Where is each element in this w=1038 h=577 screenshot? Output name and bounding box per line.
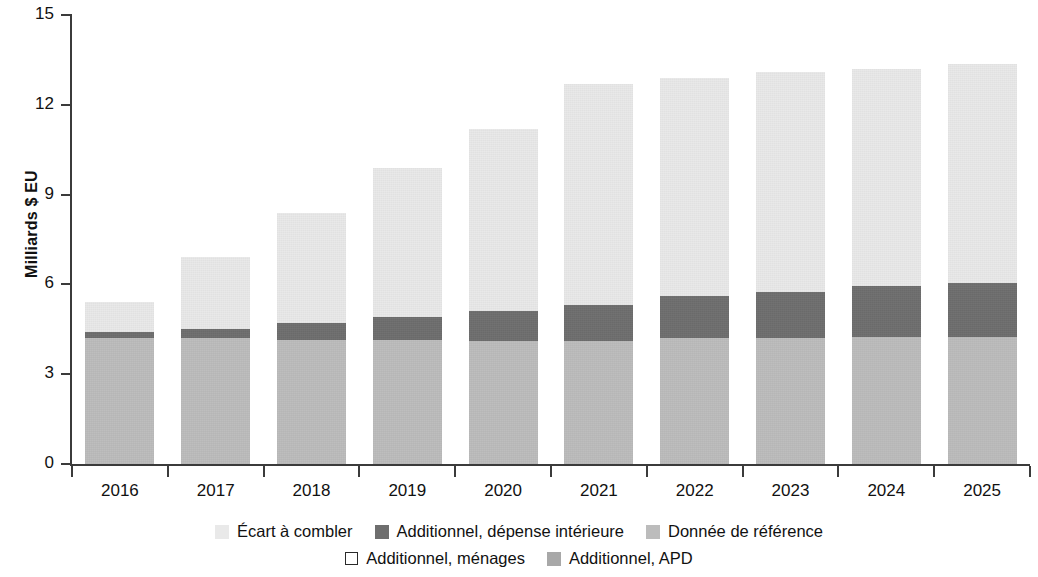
bar-segment	[948, 283, 1017, 337]
texture-overlay	[469, 341, 538, 464]
bar-2024	[852, 69, 921, 464]
bar-segment	[948, 337, 1017, 464]
texture-overlay	[852, 286, 921, 337]
bar-segment	[373, 340, 442, 464]
legend-label: Écart à combler	[237, 522, 353, 541]
texture-overlay	[948, 283, 1017, 337]
texture-overlay	[469, 311, 538, 341]
texture-overlay	[564, 305, 633, 341]
bar-segment	[756, 72, 825, 292]
legend-item[interactable]: Additionnel, ménages	[345, 549, 525, 568]
bar-segment	[85, 338, 154, 464]
texture-overlay	[564, 341, 633, 464]
legend-item[interactable]: Donnée de référence	[646, 522, 823, 541]
bar-segment	[181, 257, 250, 329]
legend-swatch-icon	[547, 552, 561, 566]
texture-overlay	[181, 338, 250, 464]
texture-overlay	[948, 64, 1017, 283]
bar-segment	[373, 317, 442, 339]
texture-overlay	[756, 292, 825, 338]
texture-overlay	[373, 168, 442, 318]
bar-2017	[181, 257, 250, 464]
texture-overlay	[277, 340, 346, 464]
texture-overlay	[469, 129, 538, 312]
legend-row: Additionnel, ménagesAdditionnel, APD	[0, 545, 1038, 572]
bar-segment	[469, 341, 538, 464]
bar-segment	[852, 69, 921, 286]
legend-item[interactable]: Additionnel, APD	[547, 549, 693, 568]
bar-segment	[564, 84, 633, 306]
bar-segment	[756, 338, 825, 464]
legend-label: Donnée de référence	[668, 522, 823, 541]
texture-overlay	[85, 338, 154, 464]
legend-swatch-icon	[375, 525, 389, 539]
texture-overlay	[948, 337, 1017, 464]
bar-segment	[564, 305, 633, 341]
bar-segment	[277, 213, 346, 324]
bar-2025	[948, 64, 1017, 464]
chart-legend: Écart à comblerAdditionnel, dépense inté…	[0, 518, 1038, 572]
texture-overlay	[852, 69, 921, 286]
bar-segment	[660, 78, 729, 297]
bar-segment	[852, 286, 921, 337]
bar-segment	[181, 329, 250, 338]
legend-label: Additionnel, APD	[569, 549, 693, 568]
legend-item[interactable]: Écart à combler	[215, 522, 353, 541]
bar-2016	[85, 302, 154, 464]
texture-overlay	[373, 340, 442, 464]
chart-container: Milliards $ EU 03691215 2016201720182019…	[0, 0, 1038, 577]
legend-swatch-icon	[646, 525, 660, 539]
texture-overlay	[660, 296, 729, 338]
bar-segment	[85, 302, 154, 332]
bar-segment	[756, 292, 825, 338]
bar-2019	[373, 168, 442, 464]
bar-2023	[756, 72, 825, 464]
texture-overlay	[373, 317, 442, 339]
texture-overlay	[277, 213, 346, 324]
plot-area	[0, 0, 1038, 577]
texture-overlay	[852, 337, 921, 464]
texture-overlay	[564, 84, 633, 306]
bar-segment	[948, 64, 1017, 283]
bar-2018	[277, 213, 346, 464]
texture-overlay	[756, 72, 825, 292]
legend-item[interactable]: Additionnel, dépense intérieure	[375, 522, 625, 541]
legend-row: Écart à comblerAdditionnel, dépense inté…	[0, 518, 1038, 545]
texture-overlay	[85, 302, 154, 332]
legend-swatch-icon	[215, 525, 229, 539]
bar-segment	[660, 338, 729, 464]
texture-overlay	[756, 338, 825, 464]
bar-segment	[469, 311, 538, 341]
legend-label: Additionnel, dépense intérieure	[397, 522, 625, 541]
bar-segment	[852, 337, 921, 464]
bar-2021	[564, 84, 633, 464]
bar-segment	[469, 129, 538, 312]
legend-label: Additionnel, ménages	[366, 549, 525, 568]
bar-segment	[277, 323, 346, 339]
texture-overlay	[85, 332, 154, 338]
bar-segment	[181, 338, 250, 464]
bar-segment	[373, 168, 442, 318]
texture-overlay	[660, 338, 729, 464]
texture-overlay	[660, 78, 729, 297]
texture-overlay	[181, 329, 250, 338]
texture-overlay	[277, 323, 346, 339]
bar-segment	[660, 296, 729, 338]
bar-segment	[85, 332, 154, 338]
texture-overlay	[181, 257, 250, 329]
bar-segment	[564, 341, 633, 464]
bar-2020	[469, 129, 538, 464]
bar-segment	[277, 340, 346, 464]
legend-swatch-icon	[345, 552, 358, 565]
bar-2022	[660, 78, 729, 464]
